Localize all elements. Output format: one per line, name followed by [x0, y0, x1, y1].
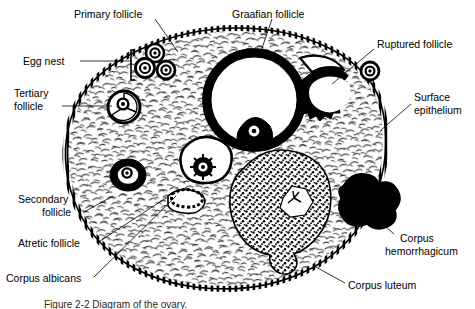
graafian-follicle	[203, 49, 305, 151]
leader-corpus-luteum	[314, 266, 345, 283]
ovary-diagram: Primary follicle Egg nest Tertiary folli…	[0, 0, 475, 309]
antral-follicle	[180, 137, 231, 183]
corpus-hemorrhagicum	[339, 174, 400, 229]
label-corpus-albicans: Corpus albicans	[6, 272, 81, 284]
label-corpus-luteum: Corpus luteum	[348, 279, 417, 291]
tertiary-follicle	[108, 91, 140, 123]
label-surface-epithelium-line1: Surface	[414, 91, 450, 103]
label-tertiary-follicle-line2: follicle	[14, 100, 43, 112]
secondary-follicle	[110, 159, 146, 191]
label-egg-nest: Egg nest	[23, 55, 65, 67]
label-ruptured-follicle: Ruptured follicle	[377, 38, 452, 50]
label-corpus-hemorrhagicum-line1: Corpus	[400, 232, 434, 244]
atretic-follicle	[168, 189, 205, 213]
label-atretic-follicle: Atretic follicle	[18, 237, 80, 249]
label-tertiary-follicle-line1: Tertiary	[14, 87, 49, 99]
primordial-follicle	[157, 61, 175, 79]
label-graafian-follicle: Graafian follicle	[232, 8, 305, 20]
figure-caption: Figure 2-2 Diagram of the ovary.	[44, 299, 187, 309]
label-surface-epithelium-line2: epithelium	[414, 104, 462, 116]
primordial-follicle	[136, 59, 155, 78]
label-secondary-follicle-line1: Secondary	[18, 193, 69, 205]
label-corpus-hemorrhagicum-line2: hemorrhagicum	[385, 245, 458, 257]
figure-caption-text: Figure 2-2 Diagram of the ovary.	[44, 299, 187, 309]
label-secondary-follicle-line2: follicle	[42, 206, 71, 218]
released-ovum	[361, 62, 379, 80]
label-primary-follicle: Primary follicle	[74, 8, 142, 20]
ovary-body	[66, 28, 400, 289]
